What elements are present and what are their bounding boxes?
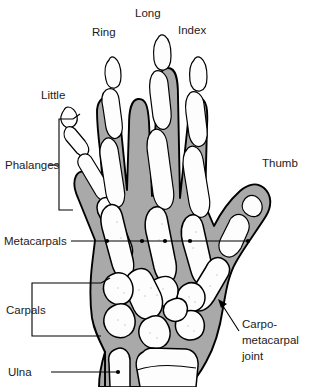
- long-distal-phalanx: [154, 35, 171, 70]
- label-ulna: Ulna: [8, 366, 32, 378]
- carpal-bone-hamate: [103, 273, 133, 305]
- ulna-bone: [109, 348, 130, 387]
- metacarpal-dot-3: [163, 239, 167, 243]
- label-carpometacarpal-line2: metacarpal: [242, 334, 299, 346]
- ring-distal-phalanx: [105, 57, 121, 88]
- label-metacarpals: Metacarpals: [4, 235, 67, 247]
- label-little: Little: [41, 89, 65, 101]
- label-thumb: Thumb: [262, 157, 298, 169]
- hand-anatomy-diagram: Little Ring Long Index Thumb Phalanges M…: [0, 0, 310, 387]
- metacarpal-dot-2: [188, 239, 192, 243]
- label-carpals: Carpals: [6, 304, 46, 316]
- metacarpal-dot-5: [105, 239, 109, 243]
- carpal-bone-pisiform: [163, 298, 187, 321]
- index-distal-phalanx: [190, 57, 207, 91]
- metacarpal-dot-4: [140, 239, 144, 243]
- label-phalanges: Phalanges: [5, 159, 60, 171]
- label-long: Long: [135, 7, 161, 19]
- thumb-distal-phalanx: [242, 195, 262, 216]
- metacarpal-dot-1: [246, 239, 250, 243]
- ulna-dot: [116, 370, 120, 374]
- label-ring: Ring: [92, 26, 116, 38]
- forearm-bones: [109, 348, 198, 387]
- label-carpometacarpal-line1: Carpo-: [242, 318, 277, 330]
- label-carpometacarpal-line3: joint: [241, 350, 264, 362]
- label-index: Index: [178, 24, 206, 36]
- carpal-bone-lunate: [139, 316, 170, 349]
- carpal-bone-triquetrum: [104, 304, 135, 338]
